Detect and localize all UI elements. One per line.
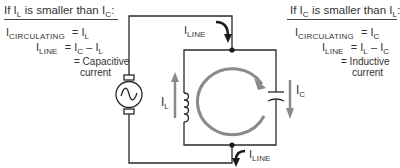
il-label: IL [161, 95, 169, 111]
subscript: LINE [252, 154, 271, 163]
ac-generator-icon [116, 75, 142, 114]
ic-current-arrow-icon [286, 80, 294, 119]
subscript: C [299, 90, 305, 99]
iline-bottom-label: ILINE [249, 148, 271, 163]
il-current-arrow-icon [171, 72, 179, 118]
circulating-current-arrow-icon [197, 69, 266, 135]
subscript: L [164, 102, 169, 111]
junction-dot-top [229, 47, 234, 52]
subscript: LINE [187, 30, 206, 39]
inductor-coil-icon [184, 93, 189, 122]
junction-dot-bottom [229, 142, 234, 147]
ic-label: IC [296, 83, 305, 99]
iline-top-label: ILINE [184, 24, 206, 39]
capacitor-icon [268, 92, 284, 101]
iline-bottom-arrow-icon [232, 151, 245, 167]
iline-top-arrow-icon [216, 22, 232, 43]
outer-wire [129, 16, 232, 163]
